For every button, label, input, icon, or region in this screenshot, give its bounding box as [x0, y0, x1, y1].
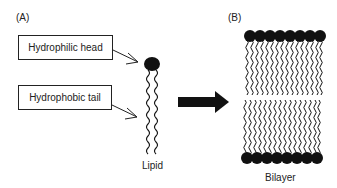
bilayer-caption: Bilayer	[265, 173, 296, 183]
panel-label-a: (A)	[16, 13, 29, 23]
hydrophilic-head-callout: Hydrophilic head	[18, 35, 113, 60]
bilayer-bottom-leaflet	[241, 100, 323, 164]
lipid-caption: Lipid	[142, 161, 163, 171]
transition-arrow	[178, 91, 229, 113]
bilayer-top-leaflet	[244, 30, 326, 95]
lipid-molecule	[144, 57, 160, 154]
head-connector-arrow	[113, 50, 138, 64]
tail-connector-arrow	[112, 105, 137, 119]
lipid-bilayer-diagram: (A) (B) Hydrophilic head Hydrophobic tai…	[0, 0, 337, 188]
panel-label-b: (B)	[228, 13, 241, 23]
lipid-head	[144, 57, 160, 71]
hydrophobic-tail-callout: Hydrophobic tail	[18, 85, 112, 110]
